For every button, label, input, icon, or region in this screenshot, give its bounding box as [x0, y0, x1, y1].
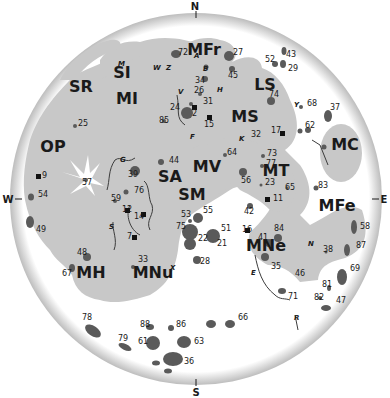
site-number-43: 43	[286, 50, 296, 59]
site-number-64: 64	[227, 148, 237, 157]
mare-label-mh: MH	[76, 263, 105, 282]
site-number-58: 58	[360, 222, 370, 231]
site-number-42: 42	[244, 207, 254, 216]
site-number-85: 85	[159, 116, 169, 125]
feature-letter-r: R	[294, 314, 299, 322]
mare-label-mfr: MFr	[187, 40, 221, 59]
site-number-72: 72	[178, 48, 188, 57]
site-number-82: 82	[314, 293, 324, 302]
site-number-55: 55	[203, 206, 213, 215]
site-number-7: 7	[127, 232, 132, 241]
site-number-15: 15	[204, 120, 214, 129]
feature-letter-n: N	[308, 240, 314, 248]
site-number-11: 11	[273, 194, 283, 203]
site-number-84: 84	[274, 224, 284, 233]
compass-east: E	[381, 194, 388, 205]
site-number-34: 34	[195, 76, 205, 85]
site-number-52: 52	[265, 55, 275, 64]
mare-label-ms: MS	[231, 107, 258, 126]
site-number-59: 59	[111, 194, 121, 203]
mare-label-mv: MV	[193, 157, 222, 176]
site-number-21: 21	[217, 239, 227, 248]
mare-label-mfe: MFe	[318, 196, 355, 215]
site-number-65: 65	[285, 183, 295, 192]
feature-letter-f: F	[190, 133, 195, 141]
mare-label-op: OP	[40, 137, 66, 156]
feature-letter-x: X	[169, 264, 176, 272]
site-number-54: 54	[38, 190, 48, 199]
site-number-37: 37	[330, 103, 340, 112]
feature-letter-z: Z	[165, 64, 172, 72]
site-number-14: 14	[134, 212, 144, 221]
site-number-12: 12	[122, 205, 132, 214]
mare-label-mi: MI	[116, 89, 138, 108]
site-number-22: 22	[198, 234, 208, 243]
site-number-26: 26	[194, 86, 204, 95]
feature-letter-w: W	[153, 64, 161, 72]
site-number-35: 35	[271, 262, 281, 271]
site-number-32: 32	[251, 130, 261, 139]
site-number-31: 31	[203, 97, 213, 106]
site-number-66: 66	[238, 313, 248, 322]
site-number-57: 57	[82, 178, 92, 187]
site-number-45: 45	[228, 71, 238, 80]
feature-letter-v: V	[178, 88, 184, 96]
feature-letter-h: H	[217, 86, 223, 94]
site-number-75: 75	[176, 222, 186, 231]
site-number-23: 23	[265, 178, 275, 187]
site-number-39: 39	[128, 170, 138, 179]
site-number-24: 24	[170, 103, 180, 112]
site-number-87: 87	[356, 241, 366, 250]
feature-letter-b: B	[203, 65, 208, 73]
feature-letter-e: E	[251, 269, 256, 277]
site-number-51: 51	[221, 224, 231, 233]
mare-label-mc: MC	[331, 135, 359, 154]
site-number-38: 38	[323, 245, 333, 254]
site-number-71: 71	[288, 292, 298, 301]
site-number-77: 77	[266, 159, 276, 168]
site-number-56: 56	[241, 176, 251, 185]
site-number-86: 86	[176, 320, 186, 329]
site-number-74: 74	[269, 90, 279, 99]
site-number-47: 47	[336, 296, 346, 305]
feature-letter-m: M	[118, 60, 125, 68]
site-number-49: 49	[36, 225, 46, 234]
site-number-41: 41	[258, 233, 268, 242]
site-number-16: 16	[242, 225, 252, 234]
site-number-48: 48	[77, 248, 87, 257]
compass-north: N	[191, 1, 199, 12]
site-number-33: 33	[138, 255, 148, 264]
site-number-78: 78	[82, 313, 92, 322]
compass-south: S	[192, 387, 199, 398]
site-number-88: 88	[140, 320, 150, 329]
site-number-81: 81	[322, 280, 332, 289]
moon-map: N S E W MFrSISRMILSMSMCOPMVMTSASMMFeMNeM…	[0, 0, 390, 398]
site-number-36: 36	[184, 357, 194, 366]
site-number-76: 76	[134, 186, 144, 195]
site-number-62: 62	[305, 121, 315, 130]
mare-label-mnu: MNu	[133, 263, 174, 282]
site-number-46: 46	[295, 269, 305, 278]
site-number-27: 27	[233, 48, 243, 57]
feature-letter-a: A	[193, 52, 199, 60]
site-number-69: 69	[350, 264, 360, 273]
feature-letter-s: S	[109, 223, 114, 231]
site-number-63: 63	[194, 337, 204, 346]
compass-west: W	[2, 194, 13, 205]
mare-label-sm: SM	[178, 185, 205, 204]
site-number-28: 28	[200, 257, 210, 266]
feature-letter-k: K	[239, 135, 245, 143]
site-number-53: 53	[181, 210, 191, 219]
site-number-79: 79	[118, 334, 128, 343]
site-number-44: 44	[169, 156, 179, 165]
site-number-29: 29	[288, 64, 298, 73]
site-number-68: 68	[307, 99, 317, 108]
mare-label-sa: SA	[158, 167, 183, 186]
site-number-83: 83	[318, 181, 328, 190]
feature-letter-g: G	[120, 156, 126, 164]
site-number-25: 25	[78, 119, 88, 128]
site-number-17: 17	[271, 126, 281, 135]
site-number-9: 9	[42, 171, 47, 180]
site-number-67: 67	[62, 269, 72, 278]
site-number-61: 61	[138, 337, 148, 346]
